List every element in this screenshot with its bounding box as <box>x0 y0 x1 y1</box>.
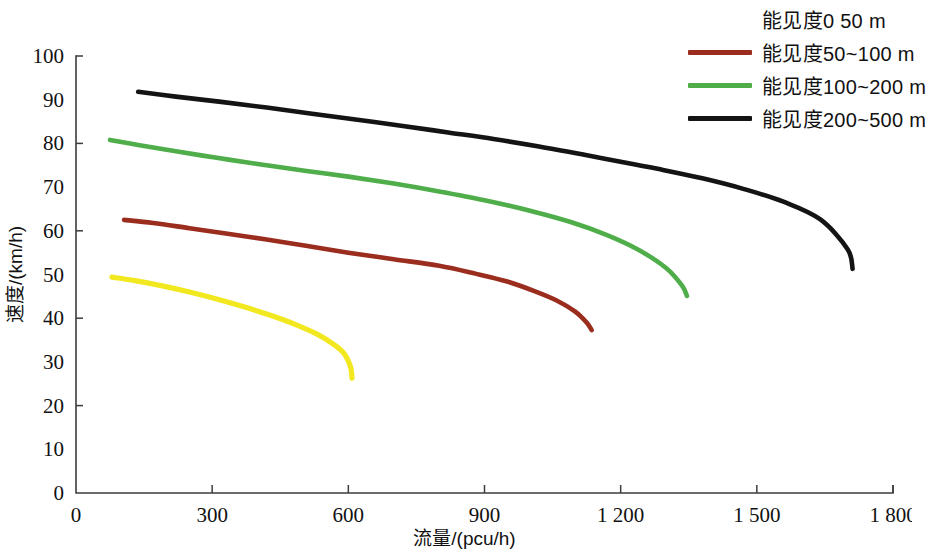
legend-swatch-icon <box>688 50 752 55</box>
series-line-3 <box>110 140 687 296</box>
legend-swatch-icon <box>688 83 752 88</box>
y-axis-title: 速度/(km/h) <box>5 226 26 323</box>
x-tick-label: 1 800 <box>869 503 912 527</box>
legend-label: 能见度200~500 m <box>762 104 926 133</box>
chart-axis-titles: 流量/(pcu/h)速度/(km/h) <box>5 226 516 549</box>
y-tick-label: 40 <box>43 306 64 330</box>
x-tick-label: 1 200 <box>597 503 644 527</box>
y-tick-label: 90 <box>43 88 64 112</box>
x-axis-tick-labels: 03006009001 2001 5001 800 <box>71 503 912 527</box>
y-tick-label: 30 <box>43 350 64 374</box>
legend-item-3[interactable]: 能见度100~200 m <box>688 70 926 100</box>
legend-label: 能见度0 50 m <box>762 5 886 34</box>
legend-label: 能见度100~200 m <box>762 71 926 100</box>
y-tick-label: 50 <box>43 263 64 287</box>
legend-swatch-icon <box>688 17 752 22</box>
legend-label: 能见度50~100 m <box>762 38 915 67</box>
legend-item-2[interactable]: 能见度50~100 m <box>688 37 915 67</box>
legend-item-1[interactable]: 能见度0 50 m <box>688 4 886 34</box>
legend-item-4[interactable]: 能见度200~500 m <box>688 103 926 133</box>
series-line-2 <box>124 220 592 330</box>
y-tick-label: 60 <box>43 219 64 243</box>
y-tick-label: 70 <box>43 175 64 199</box>
y-tick-label: 80 <box>43 131 64 155</box>
y-axis-tick-labels: 0102030405060708090100 <box>33 44 65 505</box>
y-tick-label: 0 <box>54 481 65 505</box>
x-tick-label: 0 <box>71 503 82 527</box>
x-tick-label: 300 <box>196 503 228 527</box>
x-tick-label: 900 <box>469 503 501 527</box>
y-tick-label: 20 <box>43 394 64 418</box>
series-line-1 <box>112 277 352 378</box>
y-tick-label: 100 <box>33 44 65 68</box>
legend-swatch-icon <box>688 116 752 121</box>
y-tick-label: 10 <box>43 437 64 461</box>
x-tick-label: 1 500 <box>733 503 780 527</box>
chart-series-lines <box>110 92 853 378</box>
x-axis-title: 流量/(pcu/h) <box>413 528 515 549</box>
x-tick-label: 600 <box>333 503 365 527</box>
